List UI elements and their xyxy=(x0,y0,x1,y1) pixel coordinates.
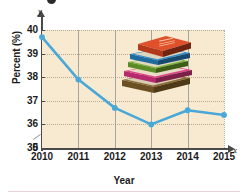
series-line xyxy=(42,37,224,124)
x-axis-title: Year xyxy=(0,175,248,186)
data-point-marker xyxy=(185,107,191,113)
data-point-marker xyxy=(221,112,227,118)
series-markers xyxy=(39,34,227,127)
y-axis-title: Percent (%) xyxy=(11,10,22,106)
data-point-marker xyxy=(76,77,82,83)
bottom-divider xyxy=(8,191,240,192)
line-chart-figure: y x ⁄⁄ 0353637383940 2010201120122013201… xyxy=(0,0,248,194)
data-point-marker xyxy=(112,105,118,111)
data-series-layer xyxy=(0,0,248,194)
data-point-marker xyxy=(148,122,154,128)
data-point-marker xyxy=(39,34,45,40)
